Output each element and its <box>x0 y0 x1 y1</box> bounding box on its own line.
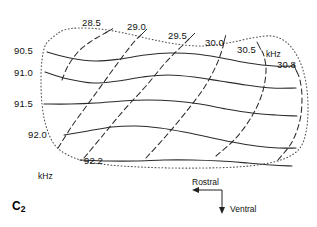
panel-label-subscript: 2 <box>21 204 26 214</box>
contour-label-30-0: 30.0 <box>205 38 224 48</box>
contour-line-91-5 <box>44 100 297 116</box>
ventral-label: Ventral <box>230 205 256 214</box>
contour-label-30-8: 30.8 <box>277 60 296 70</box>
contour-label-28-5: 28.5 <box>82 18 101 28</box>
contour-label-91-5: 91.5 <box>14 99 33 109</box>
contour-label-29-0: 29.0 <box>127 22 146 32</box>
contour-line-92-0 <box>64 126 296 148</box>
solid-contour-lines-group <box>44 52 297 166</box>
contour-line-28-5 <box>62 32 107 80</box>
leader-tick-30-5 <box>257 42 261 50</box>
contour-line-29-0 <box>58 34 142 148</box>
contour-line-90-5 <box>47 52 295 66</box>
contour-label-92-2: 92.2 <box>84 156 103 166</box>
rostral-arrowhead <box>192 187 199 193</box>
contour-label-90-5: 90.5 <box>14 46 33 56</box>
contour-line-91-0 <box>45 72 296 88</box>
ventral-arrowhead <box>219 207 225 214</box>
contour-label-30-5: 30.5 <box>237 45 256 55</box>
rostral-label: Rostral <box>192 178 219 187</box>
panel-label-letter: C <box>12 199 21 213</box>
contour-map-plot <box>0 0 317 227</box>
orientation-indicator <box>192 187 225 214</box>
contour-label-29-5: 29.5 <box>168 31 187 41</box>
figure-panel-c2: 90.591.091.592.092.2 28.529.029.530.030.… <box>0 0 317 227</box>
unit-label-kHz-0: kHz <box>266 50 281 59</box>
panel-label: C2 <box>12 200 25 212</box>
unit-label-kHz-1: kHz <box>38 172 53 181</box>
leader-tick-29-5 <box>189 33 195 39</box>
contour-label-91-0: 91.0 <box>14 68 33 78</box>
contour-label-92-0: 92.0 <box>28 130 47 140</box>
